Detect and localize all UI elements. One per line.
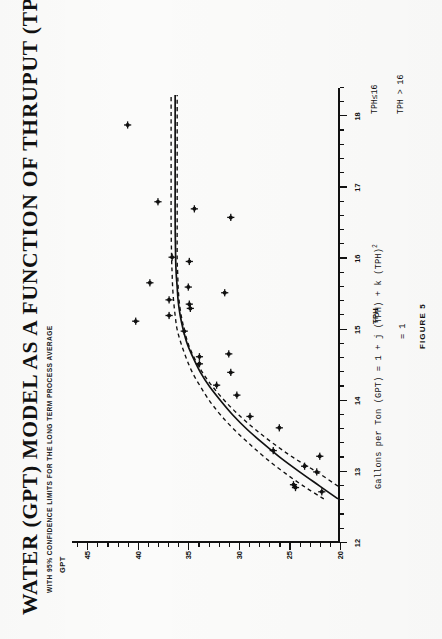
x-axis-tick-label: 14 (353, 397, 362, 405)
x-axis-major-tick (340, 257, 347, 258)
y-axis-major-tick (87, 543, 88, 550)
x-axis-major-tick (340, 471, 347, 472)
x-axis-minor-tick (340, 499, 344, 500)
data-point (227, 214, 234, 221)
x-axis-tick-label: 18 (353, 112, 362, 120)
condition-tph-gt-16: TPH > 16 (396, 75, 405, 114)
confidence-band-lower (171, 95, 324, 499)
model-equation-second-line: = 1 (398, 324, 408, 339)
model-fit-curve (175, 95, 338, 499)
data-point (191, 205, 198, 212)
x-axis-tick-label: 16 (353, 254, 362, 262)
confidence-band-upper (177, 95, 338, 486)
x-axis-minor-tick (340, 414, 344, 415)
y-axis-tick-label: 35 (184, 551, 193, 567)
x-axis-minor-tick (340, 229, 344, 230)
data-point (225, 350, 232, 357)
data-point (313, 468, 320, 475)
y-axis-major-tick (239, 543, 240, 550)
y-axis-minor-tick (128, 543, 129, 547)
y-axis-minor-tick (229, 543, 230, 547)
x-axis-minor-tick (340, 371, 344, 372)
data-point (316, 453, 323, 460)
x-axis-minor-tick (340, 385, 344, 386)
data-point (185, 283, 192, 290)
data-point (301, 463, 308, 470)
data-point (169, 254, 176, 261)
x-axis-minor-tick (340, 172, 344, 173)
x-axis-minor-tick (340, 101, 344, 102)
x-axis-minor-tick (340, 528, 344, 529)
data-point (132, 318, 139, 325)
y-axis-minor-tick (178, 543, 179, 547)
figure-caption: FIGURE 5 (418, 303, 427, 349)
y-axis-tick-label: 20 (336, 551, 345, 567)
y-axis-minor-tick (77, 543, 78, 547)
data-point (186, 258, 193, 265)
y-axis-title: GPT (58, 556, 67, 573)
model-equation-exponent: 2 (372, 244, 379, 248)
y-axis-minor-tick (158, 543, 159, 547)
y-axis-minor-tick (330, 543, 331, 547)
y-axis-minor-tick (209, 543, 210, 547)
x-axis-minor-tick (340, 442, 344, 443)
data-point (196, 353, 203, 360)
y-axis-minor-tick (310, 543, 311, 547)
x-axis-minor-tick (340, 457, 344, 458)
y-axis-major-tick (340, 543, 341, 550)
y-axis-major-tick (138, 543, 139, 550)
x-axis-major-tick (340, 115, 347, 116)
x-axis-minor-tick (340, 215, 344, 216)
x-axis-minor-tick (340, 243, 344, 244)
data-point (233, 392, 240, 399)
x-axis-major-tick (340, 186, 347, 187)
data-point (124, 121, 131, 128)
y-axis-minor-tick (320, 543, 321, 547)
y-axis-major-tick (188, 543, 189, 550)
x-axis-minor-tick (340, 286, 344, 287)
y-axis-minor-tick (279, 543, 280, 547)
x-axis-minor-tick (340, 343, 344, 344)
y-axis-minor-tick (249, 543, 250, 547)
x-axis-minor-tick (340, 314, 344, 315)
x-axis-tick-label: 15 (353, 326, 362, 334)
x-axis-minor-tick (340, 129, 344, 130)
plot-area: 12131415161718 202530354045 TPH GPT (72, 88, 340, 543)
x-axis-major-tick (340, 329, 347, 330)
x-axis-minor-tick (340, 485, 344, 486)
data-point (181, 328, 188, 335)
page-subtitle: WITH 95% CONFIDENCE LIMITS FOR THE LONG … (46, 325, 53, 593)
y-axis-minor-tick (259, 543, 260, 547)
page-title: WATER (GPT) MODEL AS A FUNCTION OF THRUP… (18, 0, 43, 615)
data-point (165, 312, 172, 319)
x-axis-minor-tick (340, 357, 344, 358)
y-axis-tick-label: 45 (83, 551, 92, 567)
data-point (221, 289, 228, 296)
x-axis-major-tick (340, 400, 347, 401)
x-axis-minor-tick (340, 87, 344, 88)
x-axis-tick-label: 17 (353, 183, 362, 191)
y-axis-minor-tick (198, 543, 199, 547)
data-point (165, 296, 172, 303)
y-axis-minor-tick (118, 543, 119, 547)
y-axis-tick-label: 30 (234, 551, 243, 567)
model-equation-text: Gallons per Ton (GPT) = 1 + j (TPH) + k … (374, 248, 384, 489)
y-axis-minor-tick (269, 543, 270, 547)
x-axis-minor-tick (340, 144, 344, 145)
data-point (186, 301, 193, 308)
y-axis-minor-tick (97, 543, 98, 547)
x-axis-tick-label: 12 (353, 539, 362, 547)
y-axis-minor-tick (219, 543, 220, 547)
plot-canvas (72, 88, 340, 543)
y-axis-tick-label: 40 (133, 551, 142, 567)
data-point (276, 424, 283, 431)
x-axis-minor-tick (340, 300, 344, 301)
model-equation: Gallons per Ton (GPT) = 1 + j (TPH) + k … (372, 244, 384, 489)
data-point (227, 369, 234, 376)
data-point (154, 198, 161, 205)
x-axis-minor-tick (340, 201, 344, 202)
y-axis-minor-tick (300, 543, 301, 547)
scanned-page: WATER (GPT) MODEL AS A FUNCTION OF THRUP… (0, 0, 442, 639)
y-axis-major-tick (289, 543, 290, 550)
y-axis-minor-tick (168, 543, 169, 547)
